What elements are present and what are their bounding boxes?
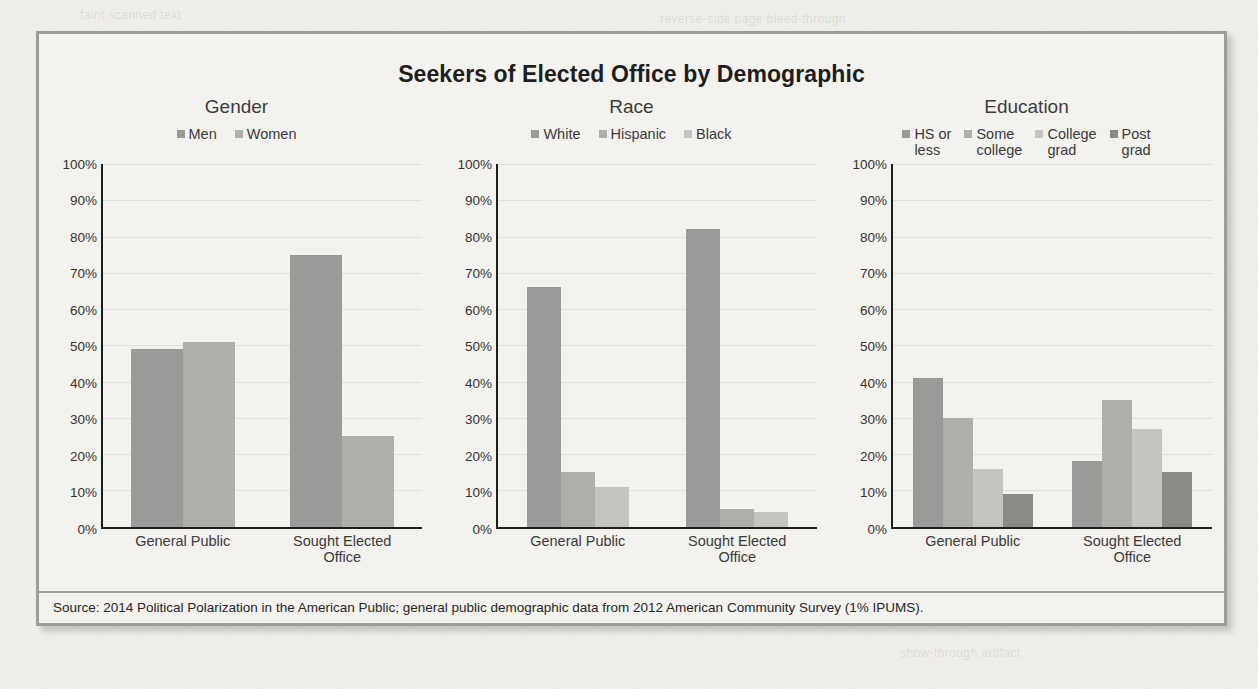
legend-swatch-icon	[235, 130, 243, 138]
panel-subtitle: Gender	[39, 96, 434, 118]
bar[interactable]	[561, 472, 595, 526]
bar[interactable]	[290, 255, 342, 527]
legend-item[interactable]: Men	[177, 126, 217, 142]
legend-swatch-icon	[684, 130, 692, 138]
bar-fill	[943, 418, 973, 527]
plot-area	[496, 164, 817, 529]
chart-panel-education: EducationHS or lessSome collegeCollege g…	[829, 96, 1224, 566]
bar-fill	[527, 287, 561, 526]
y-axis-tick-label: 50%	[465, 339, 492, 354]
legend-item[interactable]: Some college	[964, 126, 1022, 158]
bar-fill	[595, 487, 629, 527]
bar[interactable]	[527, 287, 561, 526]
bar[interactable]	[183, 342, 235, 527]
legend-item[interactable]: Hispanic	[599, 126, 667, 142]
bar-fill	[1072, 461, 1102, 526]
x-axis-tick-label: General Public	[893, 533, 1053, 566]
legend-swatch-icon	[531, 130, 539, 138]
y-axis-tick-label: 60%	[465, 302, 492, 317]
bar-groups	[498, 164, 817, 527]
bar-groups	[103, 164, 422, 527]
bar-fill	[1102, 400, 1132, 527]
y-axis-tick-label: 30%	[860, 412, 887, 427]
y-axis-tick-label: 40%	[70, 375, 97, 390]
bar[interactable]	[754, 512, 788, 527]
bar-fill	[1162, 472, 1192, 526]
y-axis-tick-label: 90%	[70, 193, 97, 208]
plot-area	[101, 164, 422, 529]
x-axis-labels: General PublicSought Elected Office	[39, 533, 434, 566]
bar[interactable]	[1072, 461, 1102, 526]
x-axis-labels: General PublicSought Elected Office	[434, 533, 829, 566]
bar[interactable]	[686, 229, 720, 526]
y-axis-tick-label: 100%	[457, 157, 492, 172]
y-axis-tick-label: 50%	[70, 339, 97, 354]
figure-frame: Seekers of Elected Office by Demographic…	[36, 31, 1227, 626]
bar[interactable]	[342, 436, 394, 527]
plot-row: 100%90%80%70%60%50%40%30%20%10%0%	[829, 164, 1224, 529]
plot-area	[891, 164, 1212, 529]
y-axis-tick-label: 80%	[860, 229, 887, 244]
y-axis: 100%90%80%70%60%50%40%30%20%10%0%	[839, 164, 891, 529]
bar-fill	[1003, 494, 1033, 527]
legend-label: Women	[247, 126, 297, 142]
legend-item[interactable]: HS or less	[902, 126, 951, 158]
legend-swatch-icon	[599, 130, 607, 138]
y-axis-tick-label: 90%	[860, 193, 887, 208]
y-axis-tick-label: 80%	[465, 229, 492, 244]
y-axis-tick-label: 40%	[465, 375, 492, 390]
y-axis-tick-label: 20%	[860, 448, 887, 463]
y-axis: 100%90%80%70%60%50%40%30%20%10%0%	[444, 164, 496, 529]
bar-groups	[893, 164, 1212, 527]
chart-legend: HS or lessSome collegeCollege gradPost g…	[829, 126, 1224, 164]
bar-fill	[290, 255, 342, 527]
legend-item[interactable]: Women	[235, 126, 297, 142]
y-axis: 100%90%80%70%60%50%40%30%20%10%0%	[49, 164, 101, 529]
bar[interactable]	[720, 509, 754, 527]
ghost-text-line: show-through artifact	[900, 646, 1020, 660]
x-axis-labels: General PublicSought Elected Office	[829, 533, 1224, 566]
bar[interactable]	[1003, 494, 1033, 527]
x-axis-tick-label: Sought Elected Office	[658, 533, 818, 566]
y-axis-tick-label: 70%	[465, 266, 492, 281]
legend-label: Black	[696, 126, 731, 142]
plot-row: 100%90%80%70%60%50%40%30%20%10%0%	[39, 164, 434, 529]
bar-fill	[131, 349, 183, 527]
legend-label: Some college	[976, 126, 1022, 158]
bar[interactable]	[913, 378, 943, 527]
bar-fill	[561, 472, 595, 526]
legend-label: White	[543, 126, 580, 142]
bar[interactable]	[1102, 400, 1132, 527]
legend-item[interactable]: College grad	[1035, 126, 1096, 158]
y-axis-tick-label: 0%	[77, 521, 97, 536]
bar-fill	[183, 342, 235, 527]
y-axis-tick-label: 100%	[62, 157, 97, 172]
bar-fill	[973, 469, 1003, 527]
bar[interactable]	[131, 349, 183, 527]
legend-item[interactable]: White	[531, 126, 580, 142]
bar[interactable]	[943, 418, 973, 527]
legend-swatch-icon	[902, 130, 910, 138]
bar[interactable]	[1162, 472, 1192, 526]
legend-label: Men	[189, 126, 217, 142]
legend-swatch-icon	[177, 130, 185, 138]
y-axis-tick-label: 80%	[70, 229, 97, 244]
y-axis-tick-label: 40%	[860, 375, 887, 390]
legend-item[interactable]: Post grad	[1110, 126, 1151, 158]
legend-item[interactable]: Black	[684, 126, 731, 142]
bar[interactable]	[595, 487, 629, 527]
legend-swatch-icon	[1110, 130, 1118, 138]
page-title: Seekers of Elected Office by Demographic	[39, 61, 1224, 88]
bar-group	[658, 164, 818, 527]
y-axis-tick-label: 30%	[70, 412, 97, 427]
panel-subtitle: Education	[829, 96, 1224, 118]
y-axis-tick-label: 70%	[70, 266, 97, 281]
bar-fill	[342, 436, 394, 527]
bar-group	[1053, 164, 1213, 527]
bar[interactable]	[1132, 429, 1162, 527]
bar-fill	[754, 512, 788, 527]
legend-label: Post grad	[1122, 126, 1151, 158]
y-axis-tick-label: 10%	[70, 485, 97, 500]
bar[interactable]	[973, 469, 1003, 527]
x-axis-tick-label: Sought Elected Office	[263, 533, 423, 566]
